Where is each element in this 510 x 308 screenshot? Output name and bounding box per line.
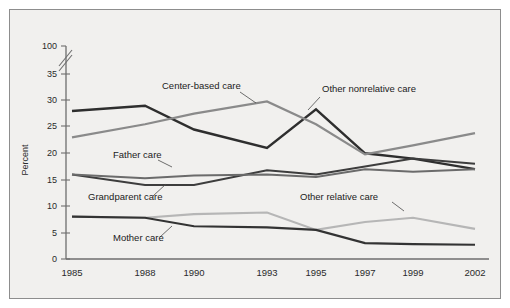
x-tick-label-1997: 1997 — [354, 267, 375, 278]
x-tick-label-2002: 2002 — [464, 267, 485, 278]
series-label-mother-care: Mother care — [113, 232, 164, 243]
x-tick-label-1990: 1990 — [183, 267, 204, 278]
series-line-center-based-care — [72, 101, 475, 154]
y-tick-label-100: 100 — [42, 41, 57, 51]
y-tick-label-35: 35 — [47, 69, 57, 79]
data-series-group — [72, 101, 475, 244]
x-tick-label-1993: 1993 — [256, 267, 277, 278]
y-tick-label-15: 15 — [47, 175, 57, 185]
chart-figure: 100 35 30 25 20 15 10 5 0 Percent 1985 1… — [0, 0, 510, 308]
y-tick-label-0: 0 — [52, 254, 57, 264]
x-tick-label-1999: 1999 — [402, 267, 423, 278]
y-tick-label-5: 5 — [52, 228, 57, 238]
y-tick-label-10: 10 — [47, 201, 57, 211]
series-label-grandparent-care: Grandparent care — [88, 191, 162, 202]
series-label-other-relative-care: Other relative care — [300, 191, 378, 202]
series-label-father-care: Father care — [113, 149, 162, 160]
x-tick-label-1995: 1995 — [305, 267, 326, 278]
y-axis-title: Percent — [20, 144, 30, 176]
series-label-other-nonrelative-care: Other nonrelative care — [322, 83, 416, 94]
y-tick-label-25: 25 — [47, 121, 57, 131]
y-tick-label-30: 30 — [47, 95, 57, 105]
line-chart: 100 35 30 25 20 15 10 5 0 Percent 1985 1… — [0, 0, 510, 308]
series-label-center-based-care: Center-based care — [162, 80, 241, 91]
x-tick-label-1985: 1985 — [61, 267, 82, 278]
x-tick-label-1988: 1988 — [134, 267, 155, 278]
y-tick-label-20: 20 — [47, 148, 57, 158]
